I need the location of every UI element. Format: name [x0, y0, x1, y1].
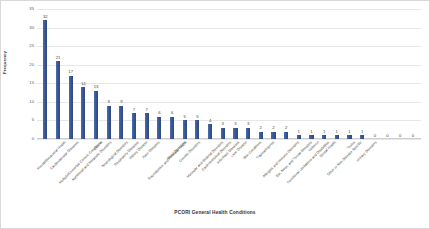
x-label-slot	[394, 140, 407, 206]
bar[interactable]	[195, 120, 199, 139]
y-axis-title: Frequency	[2, 51, 7, 74]
bar[interactable]	[271, 132, 275, 139]
bar-slot[interactable]: 0	[381, 9, 394, 139]
bar-value-label: 2	[285, 126, 287, 130]
bar-slot[interactable]: 17	[64, 9, 77, 139]
bar-value-label: 1	[323, 130, 325, 134]
bar[interactable]	[259, 132, 263, 139]
bar-slot[interactable]: 1	[292, 9, 305, 139]
x-label-slot: Cancer	[90, 140, 103, 206]
x-label-slot: Respiratory Diseases	[115, 140, 128, 206]
bar-value-label: 13	[94, 85, 99, 89]
bar[interactable]	[297, 135, 301, 139]
bar[interactable]	[284, 132, 288, 139]
bar[interactable]	[119, 106, 123, 139]
x-label-slot: Kidney Disease	[128, 140, 141, 206]
bar[interactable]	[233, 128, 237, 139]
y-axis-tick-label: 35	[29, 7, 34, 11]
bar-slot[interactable]: 7	[128, 9, 141, 139]
bar[interactable]	[107, 106, 111, 139]
bar-slot[interactable]: 5	[178, 9, 191, 139]
bar[interactable]	[208, 124, 212, 139]
x-label-slot: Other or Non-Disease Specific	[330, 140, 343, 206]
bar-value-label: 9	[120, 100, 122, 104]
y-axis-tick-label: 10	[29, 100, 34, 104]
x-label-slot: Mental/Behavioral Health	[39, 140, 52, 206]
bar-slot[interactable]: 2	[267, 9, 280, 139]
bar-value-label: 21	[56, 56, 61, 60]
bar[interactable]	[221, 128, 225, 139]
bar-slot[interactable]: 0	[394, 9, 407, 139]
bar[interactable]	[322, 135, 326, 139]
x-label-slot: Nutritional and Metabolic Disorders	[77, 140, 90, 206]
bar-slot[interactable]: 1	[305, 9, 318, 139]
bar[interactable]	[309, 135, 313, 139]
plot-area: 05101520253035 3221171413997766554333222…	[37, 9, 421, 139]
bar-slot[interactable]: 3	[229, 9, 242, 139]
bar-value-label: 6	[158, 111, 160, 115]
bar-slot[interactable]: 1	[356, 9, 369, 139]
bar-chart: Frequency 05101520253035 322117141399776…	[0, 0, 430, 229]
bar[interactable]	[183, 120, 187, 139]
bar-slot[interactable]: 1	[330, 9, 343, 139]
bar-slot[interactable]: 32	[39, 9, 52, 139]
bar-value-label: 3	[222, 122, 224, 126]
bar[interactable]	[81, 87, 85, 139]
bar-value-label: 7	[146, 108, 148, 112]
bar-value-label: 5	[184, 115, 186, 119]
bar-slot[interactable]: 5	[191, 9, 204, 139]
bar-value-label: 17	[68, 70, 73, 74]
bar-value-label: 1	[348, 130, 350, 134]
bar[interactable]	[335, 135, 339, 139]
bar-value-label: 0	[374, 134, 376, 138]
x-label-slot: Infectious Diseases	[216, 140, 229, 206]
bar-value-label: 3	[234, 122, 236, 126]
bar-slot[interactable]: 13	[90, 9, 103, 139]
bar[interactable]	[347, 135, 351, 139]
bar-value-label: 4	[209, 119, 211, 123]
bar-slot[interactable]: 0	[368, 9, 381, 139]
bar-value-label: 2	[260, 126, 262, 130]
bar-slot[interactable]: 9	[115, 9, 128, 139]
x-label-slot: Ear, Nose, and Throat Diseases	[280, 140, 293, 206]
bar[interactable]	[246, 128, 250, 139]
bar-slot[interactable]: 21	[52, 9, 65, 139]
bar-value-label: 1	[298, 130, 300, 134]
bar-slot[interactable]: 2	[254, 9, 267, 139]
bar-slot[interactable]: 9	[102, 9, 115, 139]
bar-slot[interactable]: 2	[280, 9, 293, 139]
bar-slot[interactable]: 0	[406, 9, 419, 139]
bar-slot[interactable]: 7	[140, 9, 153, 139]
bar[interactable]	[132, 113, 136, 139]
bar[interactable]	[170, 117, 174, 139]
bar-value-label: 2	[272, 126, 274, 130]
y-axis-tick-label: 5	[32, 118, 34, 122]
x-label-slot: Neurological Disorders	[102, 140, 115, 206]
bar-slot[interactable]: 1	[343, 9, 356, 139]
bar-slot[interactable]: 1	[318, 9, 331, 139]
bar-slot[interactable]: 3	[242, 9, 255, 139]
bar[interactable]	[94, 91, 98, 139]
bar-slot[interactable]: 14	[77, 9, 90, 139]
x-label-slot: Muscular and Skeletal Disorders	[191, 140, 204, 206]
x-axis-tick-labels: Mental/Behavioral HealthCardiovascular D…	[37, 140, 421, 206]
bar-value-label: 0	[412, 134, 414, 138]
x-label-slot: Gastrointestinal Disorders	[204, 140, 217, 206]
y-axis-tick-label: 15	[29, 81, 34, 85]
y-axis-tick-label: 20	[29, 63, 34, 67]
bar[interactable]	[157, 117, 161, 139]
bar-value-label: 3	[247, 122, 249, 126]
bar-value-label: 0	[386, 134, 388, 138]
y-axis-tick-label: 0	[32, 137, 34, 141]
bar[interactable]	[145, 113, 149, 139]
bar-slot[interactable]: 4	[204, 9, 217, 139]
bar[interactable]	[69, 76, 73, 139]
bar[interactable]	[43, 20, 47, 139]
x-label-slot: Toxins	[343, 140, 356, 206]
bar-slot[interactable]: 6	[166, 9, 179, 139]
bar[interactable]	[360, 135, 364, 139]
x-axis-title: PCORI General Health Conditions	[1, 210, 429, 215]
bar[interactable]	[56, 61, 60, 139]
bar-slot[interactable]: 3	[216, 9, 229, 139]
bar-slot[interactable]: 6	[153, 9, 166, 139]
